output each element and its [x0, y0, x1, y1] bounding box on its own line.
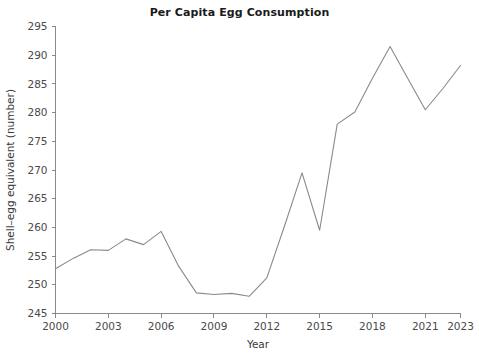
x-tick-label: 2012 [253, 320, 280, 332]
y-tick-label: 275 [27, 135, 47, 147]
x-tick-label: 2003 [95, 320, 122, 332]
y-tick-label: 260 [27, 221, 47, 233]
y-tick-label: 255 [27, 250, 47, 262]
y-tick-label: 270 [27, 164, 47, 176]
x-tick-label: 2021 [412, 320, 439, 332]
x-tick-label: 2009 [201, 320, 228, 332]
y-tick-label: 245 [27, 307, 47, 319]
x-tick-label: 2015 [306, 320, 333, 332]
y-tick-label: 285 [27, 78, 47, 90]
y-tick-label: 280 [27, 106, 47, 118]
y-axis-title: Shell–egg equivalent (number) [4, 89, 16, 251]
chart-container: Per Capita Egg Consumption 2452502552602… [0, 0, 479, 358]
x-axis: 200020032006200920122015201820212023 [42, 314, 474, 332]
y-tick-label: 290 [27, 49, 47, 61]
x-tick-label: 2006 [148, 320, 175, 332]
data-series-group [56, 47, 461, 297]
x-tick-label: 2000 [42, 320, 69, 332]
y-tick-label: 295 [27, 20, 47, 32]
y-axis: 245250255260265270275280285290295 [27, 20, 55, 319]
y-tick-label: 250 [27, 278, 47, 290]
line-chart-plot: 245250255260265270275280285290295 200020… [0, 0, 479, 358]
x-axis-title: Year [246, 338, 270, 350]
data-line-series [56, 47, 461, 297]
x-tick-label: 2023 [447, 320, 474, 332]
x-tick-label: 2018 [359, 320, 386, 332]
y-tick-label: 265 [27, 192, 47, 204]
